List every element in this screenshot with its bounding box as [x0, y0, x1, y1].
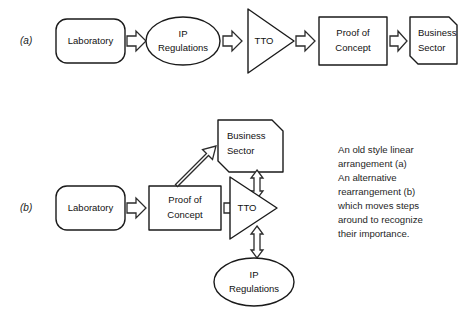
node-ip-regulations-b[interactable]: IP Regulations [214, 258, 294, 306]
block-arrow-right-icon [223, 31, 242, 51]
node-ip-regulations-b-label-line1: IP [250, 269, 259, 280]
node-tto-a-label: TTO [255, 35, 274, 46]
node-ip-regulations-a-label-line2: Regulations [158, 42, 208, 53]
block-arrow-right-icon [296, 31, 315, 51]
node-ip-regulations-a-label-line1: IP [179, 28, 188, 39]
arrow-tto-to-poc-a [296, 31, 315, 51]
caption-line-1: An old style linear [338, 144, 415, 155]
node-business-sector-a-label-line2: Sector [418, 42, 445, 53]
node-tto-b-label: TTO [238, 202, 257, 213]
caption-line-7: their importance. [338, 228, 409, 239]
node-proof-of-concept-b-label-line2: Concept [167, 209, 203, 220]
node-business-sector-a-label-line1: Business [418, 27, 457, 38]
row-a-tag: (a) [20, 35, 32, 46]
arrow-poc-to-business-b [176, 146, 217, 187]
figure-canvas: (a) Laboratory IP Regulations [0, 0, 462, 312]
node-proof-of-concept-b-label-line1: Proof of [168, 194, 202, 205]
row-b-tag: (b) [20, 202, 32, 213]
node-laboratory-b[interactable]: Laboratory [56, 186, 125, 230]
arrow-tto-to-ip-b [251, 226, 263, 258]
process-flow-diagram: (a) Laboratory IP Regulations [0, 0, 462, 312]
node-business-sector-b-label-line1: Business [227, 130, 266, 141]
block-arrow-right-icon [127, 198, 146, 218]
row-b: (b) Laboratory Proof of Concept [20, 120, 294, 306]
row-a: (a) Laboratory IP Regulations [20, 9, 457, 73]
caption-line-5: which moves steps [337, 200, 419, 211]
node-tto-a[interactable]: TTO [248, 9, 294, 73]
caption-line-3: An alternative [338, 172, 397, 183]
node-laboratory-a-label: Laboratory [68, 35, 114, 46]
block-arrow-right-icon [390, 31, 407, 51]
arrow-ip-to-tto-a [223, 31, 242, 51]
node-business-sector-b[interactable]: Business Sector [218, 120, 283, 172]
caption-line-6: around to recognize [338, 214, 423, 225]
node-proof-of-concept-b[interactable]: Proof of Concept [149, 186, 221, 230]
caption-block: An old style linear arrangement (a) An a… [337, 144, 423, 239]
double-block-arrow-vertical-icon [251, 226, 263, 258]
node-laboratory-b-label: Laboratory [68, 202, 114, 213]
chamfered-box-shape [410, 17, 457, 64]
node-proof-of-concept-a-label-line1: Proof of [336, 27, 370, 38]
node-ip-regulations-b-label-line2: Regulations [229, 283, 279, 294]
node-proof-of-concept-a[interactable]: Proof of Concept [319, 17, 387, 65]
diagonal-block-arrow-up-right-icon [176, 146, 217, 187]
node-proof-of-concept-a-label-line2: Concept [335, 42, 371, 53]
node-business-sector-b-label-line2: Sector [227, 145, 254, 156]
caption-line-4: rearrangement (b) [338, 186, 415, 197]
node-business-sector-a[interactable]: Business Sector [410, 17, 457, 64]
caption-line-2: arrangement (a) [338, 158, 407, 169]
arrow-poc-to-business-a [390, 31, 407, 51]
node-ip-regulations-a[interactable]: IP Regulations [146, 17, 220, 65]
node-laboratory-a[interactable]: Laboratory [56, 19, 125, 63]
arrow-laboratory-to-ip-a [127, 31, 146, 51]
arrow-laboratory-to-poc-b [127, 198, 146, 218]
block-arrow-right-icon [127, 31, 146, 51]
